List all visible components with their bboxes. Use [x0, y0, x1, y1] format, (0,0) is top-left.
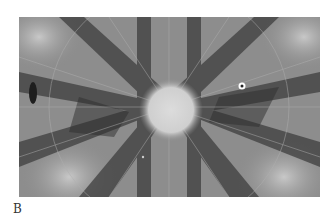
diffraction-pattern-image	[19, 17, 320, 197]
panel-label: B	[13, 203, 22, 215]
